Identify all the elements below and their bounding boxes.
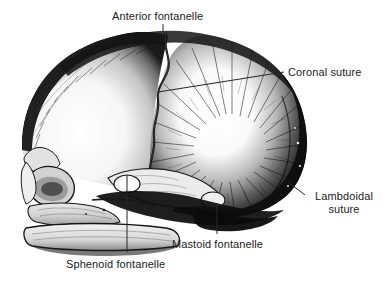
maxilla bbox=[28, 203, 120, 227]
label-anterior-fontanelle: Anterior fontanelle bbox=[112, 10, 203, 23]
label-mastoid-fontanelle: Mastoid fontanelle bbox=[172, 238, 263, 251]
label-lambdoidal-suture: Lambdoidalsuture bbox=[307, 190, 381, 215]
label-sphenoid-fontanelle: Sphenoid fontanelle bbox=[66, 258, 165, 271]
label-lambdoidal-suture-line1: Lambdoidal bbox=[315, 190, 373, 202]
skull-anatomy-figure: Anterior fontanelle Coronal suture Lambd… bbox=[0, 0, 388, 282]
label-lambdoidal-suture-line2: suture bbox=[307, 203, 381, 216]
label-coronal-suture: Coronal suture bbox=[288, 66, 362, 79]
